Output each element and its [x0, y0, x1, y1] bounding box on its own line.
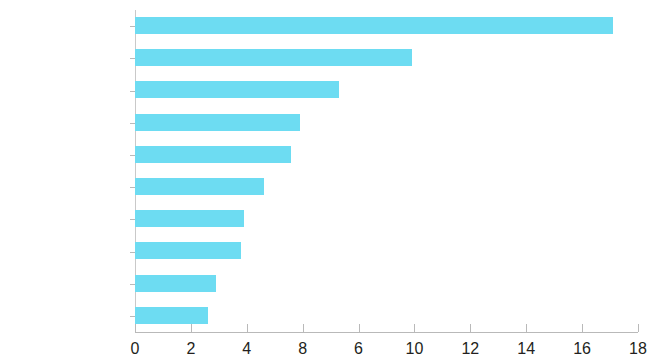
y-axis-tick [130, 123, 135, 124]
x-axis-tick-label: 4 [227, 340, 267, 358]
x-axis-tick-label: 12 [450, 340, 490, 358]
x-axis-tick [247, 324, 248, 332]
bar-row: Viet Nam [135, 300, 638, 332]
x-axis-tick-label: 14 [506, 340, 546, 358]
bar [135, 114, 300, 131]
bar-row: Bangladesh [135, 74, 638, 106]
bar [135, 210, 244, 227]
x-axis-tick [303, 324, 304, 332]
bar-row: Pakistan [135, 107, 638, 139]
y-axis-tick [130, 26, 135, 27]
y-axis-tick [130, 91, 135, 92]
x-axis-tick [359, 324, 360, 332]
bar [135, 307, 208, 324]
y-axis-tick [130, 187, 135, 188]
bar [135, 146, 291, 163]
bar [135, 17, 613, 34]
x-axis-tick [582, 324, 583, 332]
bar-row: Philippines [135, 139, 638, 171]
x-axis-tick-label: 16 [562, 340, 602, 358]
x-axis-tick-label: 10 [394, 340, 434, 358]
y-axis-tick [130, 252, 135, 253]
x-axis-line [135, 332, 638, 333]
bar [135, 275, 216, 292]
bar-row: Afghanistan [135, 171, 638, 203]
x-axis-tick-label: 2 [171, 340, 211, 358]
bar-row: India [135, 10, 638, 42]
bar [135, 242, 241, 259]
y-axis-tick [130, 316, 135, 317]
x-axis-tick-label: 18 [618, 340, 648, 358]
bar-row: Indonesia [135, 203, 638, 235]
bar [135, 49, 412, 66]
bar [135, 178, 264, 195]
x-axis-tick-label: 6 [339, 340, 379, 358]
bar [135, 81, 339, 98]
x-axis-tick [638, 324, 639, 332]
bar-row: Myanmar [135, 268, 638, 300]
y-axis-tick [130, 219, 135, 220]
y-axis-tick [130, 58, 135, 59]
y-axis-tick [130, 155, 135, 156]
chart-title [0, 0, 648, 5]
x-axis-tick [414, 324, 415, 332]
x-axis-tick-label: 0 [115, 340, 155, 358]
y-axis-tick [130, 284, 135, 285]
x-axis-tick [135, 324, 136, 332]
bar-row: PRC [135, 42, 638, 74]
plot-area: IndiaPRCBangladeshPakistanPhilippinesAfg… [135, 10, 638, 332]
x-axis-tick [191, 324, 192, 332]
x-axis-tick [470, 324, 471, 332]
x-axis-tick-label: 8 [283, 340, 323, 358]
bar-chart-figure: IndiaPRCBangladeshPakistanPhilippinesAfg… [0, 0, 648, 364]
x-axis-tick [526, 324, 527, 332]
bar-row: Kazakhstan [135, 235, 638, 267]
